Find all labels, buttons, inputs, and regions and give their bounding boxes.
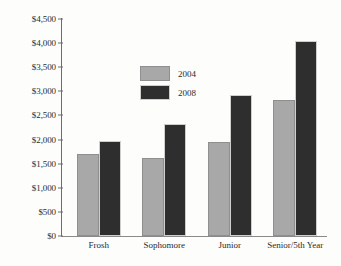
- x-axis-label: Sophomore: [144, 240, 186, 250]
- legend-item-2004: 2004: [140, 65, 196, 82]
- bar-frosh-2004: [77, 154, 99, 236]
- bar-junior-2004: [208, 142, 230, 237]
- plot-area: $0$500$1,000$1,500$2,000$2,500$3,000$3,5…: [62, 19, 324, 236]
- bar-senior-5th-year-2004: [273, 100, 295, 236]
- bar-group: [208, 19, 252, 236]
- bar-chart-figure: $0$500$1,000$1,500$2,000$2,500$3,000$3,5…: [0, 0, 341, 266]
- legend-swatch-2008: [140, 85, 170, 100]
- legend-item-2008: 2008: [140, 84, 196, 101]
- bar-senior-5th-year-2008: [295, 41, 317, 236]
- bar-junior-2008: [230, 95, 252, 236]
- legend-label: 2004: [178, 69, 196, 79]
- legend-swatch-2004: [140, 66, 170, 81]
- bar-sophomore-2008: [164, 124, 186, 236]
- legend-label: 2008: [178, 88, 196, 98]
- x-axis-line: [61, 236, 327, 237]
- bar-group: [273, 19, 317, 236]
- x-axis-label: Frosh: [88, 240, 109, 250]
- x-axis-label: Junior: [219, 240, 242, 250]
- x-axis-label: Senior/5th Year: [267, 240, 323, 250]
- bar-group: [77, 19, 121, 236]
- bar-frosh-2008: [99, 141, 121, 236]
- bar-group: [142, 19, 186, 236]
- chart-legend: 20042008: [140, 65, 196, 103]
- bars-layer: [62, 19, 324, 236]
- bar-sophomore-2004: [142, 158, 164, 236]
